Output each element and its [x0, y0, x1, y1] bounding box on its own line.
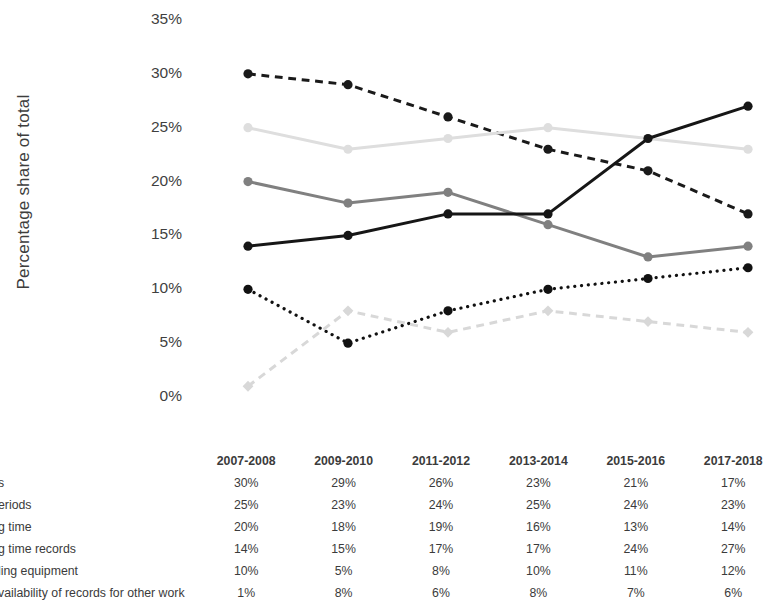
series-data-point: 2007-2008: 20%	[243, 177, 252, 186]
table-column-header: 2007-2008	[197, 450, 294, 472]
table-cell-value: 23%	[685, 494, 782, 516]
chart-series: 2007-2008: 14%2009-2010: 15%2011-2012: 1…	[243, 102, 752, 251]
table-column-header: 2009-2010	[295, 450, 392, 472]
table-cell-value: 11%	[587, 560, 684, 582]
table-cell-value: 20%	[197, 516, 294, 538]
series-data-point: 2017-2018: 6%	[743, 327, 754, 338]
series-data-point: 2011-2012: 19%	[443, 188, 452, 197]
table-column-header: 2011-2012	[392, 450, 489, 472]
table-cell-value: 16%	[490, 516, 587, 538]
data-table-region: 2007-20082009-20102011-20122013-20142015…	[0, 450, 782, 600]
table-row: vailability of records for other work1%8…	[0, 582, 782, 600]
series-line	[248, 268, 748, 343]
table-cell-value: 17%	[685, 472, 782, 494]
series-data-point: 2007-2008: 10%	[243, 285, 252, 294]
table-cell-value: 10%	[490, 560, 587, 582]
table-cell-value: 14%	[197, 538, 294, 560]
table-row-label: g time records	[0, 538, 197, 560]
series-data-point: 2011-2012: 26%	[443, 112, 452, 121]
series-data-point: 2015-2016: 13%	[643, 252, 652, 261]
series-data-point: 2015-2016: 7%	[643, 316, 654, 327]
series-data-point: 2013-2014: 25%	[543, 123, 552, 132]
chart-and-table-page: Percentage share of total 0%5%10%15%20%2…	[0, 0, 782, 600]
table-cell-value: 23%	[490, 472, 587, 494]
table-row: g time records14%15%17%17%24%27%	[0, 538, 782, 560]
table-cell-value: 6%	[685, 582, 782, 600]
data-table: 2007-20082009-20102011-20122013-20142015…	[0, 450, 782, 600]
table-cell-value: 13%	[587, 516, 684, 538]
table-cell-value: 12%	[685, 560, 782, 582]
series-data-point: 2013-2014: 8%	[543, 305, 554, 316]
table-row: g time20%18%19%16%13%14%	[0, 516, 782, 538]
table-cell-value: 18%	[295, 516, 392, 538]
series-data-point: 2017-2018: 12%	[743, 263, 752, 272]
series-data-point: 2007-2008: 30%	[243, 69, 252, 78]
table-row-label: ling equipment	[0, 560, 197, 582]
series-data-point: 2009-2010: 15%	[343, 231, 352, 240]
series-data-point: 2017-2018: 27%	[743, 102, 752, 111]
table-cell-value: 14%	[685, 516, 782, 538]
table-row: eriods25%23%24%25%24%23%	[0, 494, 782, 516]
table-row-label: s	[0, 472, 197, 494]
series-data-point: 2013-2014: 23%	[543, 145, 552, 154]
series-data-point: 2015-2016: 11%	[643, 274, 652, 283]
series-line	[248, 311, 748, 386]
table-cell-value: 17%	[490, 538, 587, 560]
table-row: ling equipment10%5%8%10%11%12%	[0, 560, 782, 582]
table-cell-value: 8%	[295, 582, 392, 600]
table-body: s30%29%26%23%21%17%eriods25%23%24%25%24%…	[0, 472, 782, 600]
table-column-header: 2015-2016	[587, 450, 684, 472]
table-cell-value: 24%	[587, 538, 684, 560]
table-cell-value: 7%	[587, 582, 684, 600]
table-row: s30%29%26%23%21%17%	[0, 472, 782, 494]
table-cell-value: 8%	[490, 582, 587, 600]
table-cell-value: 5%	[295, 560, 392, 582]
series-data-point: 2009-2010: 29%	[343, 80, 352, 89]
table-cell-value: 19%	[392, 516, 489, 538]
series-line	[248, 182, 748, 257]
line-chart: Percentage share of total 0%5%10%15%20%2…	[0, 0, 782, 450]
table-cell-value: 24%	[587, 494, 684, 516]
series-data-point: 2017-2018: 23%	[743, 145, 752, 154]
chart-series: 2007-2008: 25%2009-2010: 23%2011-2012: 2…	[243, 123, 752, 154]
series-data-point: 2015-2016: 21%	[643, 166, 652, 175]
series-data-point: 2013-2014: 16%	[543, 220, 552, 229]
series-line	[248, 106, 748, 246]
chart-plot-area: 2007-2008: 30%2009-2010: 29%2011-2012: 2…	[0, 0, 782, 420]
table-column-header: 2013-2014	[490, 450, 587, 472]
table-row-label: g time	[0, 516, 197, 538]
table-cell-value: 23%	[295, 494, 392, 516]
table-cell-value: 24%	[392, 494, 489, 516]
table-cell-value: 29%	[295, 472, 392, 494]
series-data-point: 2011-2012: 24%	[443, 134, 452, 143]
table-row-label: eriods	[0, 494, 197, 516]
table-cell-value: 6%	[392, 582, 489, 600]
table-cell-value: 21%	[587, 472, 684, 494]
table-cell-value: 26%	[392, 472, 489, 494]
series-data-point: 2011-2012: 17%	[443, 209, 452, 218]
table-cell-value: 10%	[197, 560, 294, 582]
table-cell-value: 27%	[685, 538, 782, 560]
series-data-point: 2013-2014: 17%	[543, 209, 552, 218]
series-data-point: 2007-2008: 14%	[243, 242, 252, 251]
table-cell-value: 30%	[197, 472, 294, 494]
series-data-point: 2017-2018: 17%	[743, 209, 752, 218]
series-data-point: 2011-2012: 6%	[443, 327, 454, 338]
table-row-label: vailability of records for other work	[0, 582, 197, 600]
table-cell-value: 15%	[295, 538, 392, 560]
table-cell-value: 17%	[392, 538, 489, 560]
series-data-point: 2009-2010: 8%	[343, 305, 354, 316]
chart-series: 2007-2008: 1%2009-2010: 8%2011-2012: 6%2…	[243, 305, 754, 391]
chart-series: 2007-2008: 10%2009-2010: 5%2011-2012: 8%…	[243, 263, 752, 348]
series-data-point: 2009-2010: 23%	[343, 145, 352, 154]
table-cell-value: 1%	[197, 582, 294, 600]
table-cell-value: 25%	[490, 494, 587, 516]
series-data-point: 2009-2010: 5%	[343, 339, 352, 348]
series-data-point: 2011-2012: 8%	[443, 306, 452, 315]
series-data-point: 2009-2010: 18%	[343, 199, 352, 208]
series-data-point: 2017-2018: 14%	[743, 242, 752, 251]
table-header-row: 2007-20082009-20102011-20122013-20142015…	[0, 450, 782, 472]
series-data-point: 2013-2014: 10%	[543, 285, 552, 294]
series-data-point: 2007-2008: 25%	[243, 123, 252, 132]
table-column-header: 2017-2018	[685, 450, 782, 472]
